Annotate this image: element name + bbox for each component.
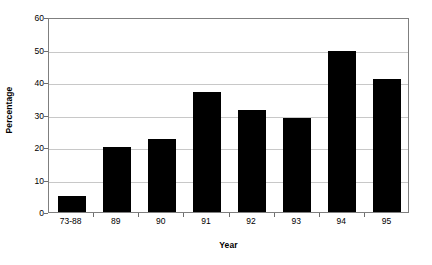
bar [283,118,311,212]
y-axis-tick-marks [0,18,48,213]
bar-slot [94,19,139,212]
x-tick-label: 94 [337,216,346,226]
bar-slot [49,19,94,212]
bar-slot [365,19,410,212]
x-tick-label: 73-88 [60,216,82,226]
plot-area [48,18,409,213]
x-tick-label: 95 [382,216,391,226]
bar-chart-figure: Percentage 0102030405060 73-888990919293… [0,0,432,265]
bar [238,110,266,212]
bar [373,79,401,212]
bar-slot [139,19,184,212]
bar [328,51,356,212]
bar-slot [320,19,365,212]
bar [148,139,176,212]
bar-slot [230,19,275,212]
x-tick-label: 92 [246,216,255,226]
x-axis-title: Year [48,240,409,250]
bar [103,147,131,212]
x-axis-tick-labels: 73-8889909192939495 [48,216,409,232]
x-tick-label: 89 [111,216,120,226]
bar [58,196,86,212]
x-tick-label: 93 [291,216,300,226]
bar [193,92,221,212]
bar-slot [184,19,229,212]
x-tick-label: 90 [156,216,165,226]
bar-slot [275,19,320,212]
x-tick-label: 91 [201,216,210,226]
